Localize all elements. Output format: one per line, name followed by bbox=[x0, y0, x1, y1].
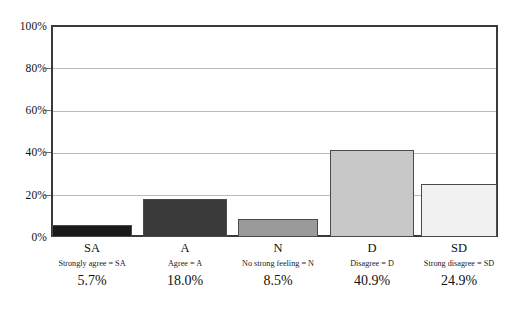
bars-layer bbox=[51, 25, 498, 237]
category-code-SA: SA bbox=[41, 240, 143, 257]
y-axis-tick-mark-80 bbox=[44, 68, 51, 69]
bar-chart-figure: 100% 80% 60% 40% 20% 0% SA Strongly agre… bbox=[0, 0, 520, 311]
bar-A[interactable] bbox=[143, 199, 227, 237]
y-axis-tick-mark-40 bbox=[44, 152, 51, 153]
category-legend-A: Agree = A bbox=[134, 257, 236, 271]
category-code-N: N bbox=[227, 240, 329, 257]
category-value-SD: 24.9% bbox=[408, 271, 510, 291]
category-legend-N: No strong feeling = N bbox=[227, 257, 329, 271]
y-axis-tick-label-100: 100% bbox=[3, 20, 47, 32]
x-axis-categories: SA Strongly agree = SA 5.7% A Agree = A … bbox=[51, 240, 498, 311]
category-block-SA: SA Strongly agree = SA 5.7% bbox=[41, 240, 143, 291]
category-value-SA: 5.7% bbox=[41, 271, 143, 291]
category-code-A: A bbox=[134, 240, 236, 257]
category-code-SD: SD bbox=[408, 240, 510, 257]
category-legend-SD: Strong disagree = SD bbox=[408, 257, 510, 271]
category-block-N: N No strong feeling = N 8.5% bbox=[227, 240, 329, 291]
y-axis-tick-label-80: 80% bbox=[3, 62, 47, 74]
y-axis-tick-label-20: 20% bbox=[3, 189, 47, 201]
bar-D[interactable] bbox=[330, 150, 414, 237]
y-axis-tick-mark-20 bbox=[44, 195, 51, 196]
y-axis: 100% 80% 60% 40% 20% 0% bbox=[0, 0, 47, 311]
category-legend-SA: Strongly agree = SA bbox=[41, 257, 143, 271]
category-value-A: 18.0% bbox=[134, 271, 236, 291]
category-value-N: 8.5% bbox=[227, 271, 329, 291]
bar-N[interactable] bbox=[238, 219, 318, 237]
category-block-SD: SD Strong disagree = SD 24.9% bbox=[408, 240, 510, 291]
bar-SD[interactable] bbox=[421, 184, 497, 237]
category-block-A: A Agree = A 18.0% bbox=[134, 240, 236, 291]
bar-SA[interactable] bbox=[52, 225, 132, 237]
y-axis-tick-label-40: 40% bbox=[3, 146, 47, 158]
y-axis-tick-mark-60 bbox=[44, 110, 51, 111]
y-axis-tick-label-60: 60% bbox=[3, 104, 47, 116]
